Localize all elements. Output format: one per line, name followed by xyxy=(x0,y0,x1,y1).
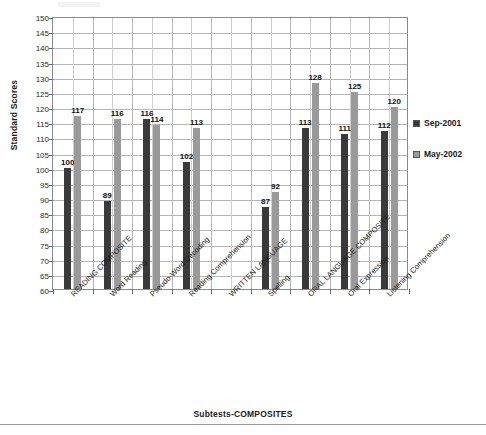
bar-value-label: 120 xyxy=(388,97,401,106)
bar-value-label: 116 xyxy=(111,109,124,118)
chart-legend: Sep-2001May-2002 xyxy=(413,118,462,180)
footer-divider xyxy=(0,424,486,425)
bar-may-2002: 125 xyxy=(351,92,358,289)
y-axis-title: Standard Scores xyxy=(9,55,19,175)
bar-value-label: 128 xyxy=(308,73,321,82)
bar-value-label: 117 xyxy=(71,106,84,115)
y-axis-tick-label: 110 xyxy=(36,135,49,144)
y-axis-tick-label: 65 xyxy=(40,271,49,280)
legend-label: Sep-2001 xyxy=(424,118,461,128)
bar-sep-2001: 100 xyxy=(64,168,71,289)
bar-sep-2001: 87 xyxy=(262,207,269,289)
bar-may-2002: 128 xyxy=(312,83,319,289)
bar-sep-2001: 113 xyxy=(302,128,309,289)
bar-value-label: 102 xyxy=(180,152,193,161)
legend-swatch-icon xyxy=(413,151,420,158)
bar-group: 116114 xyxy=(141,18,163,289)
bar-value-label: 112 xyxy=(378,121,391,130)
category-slot: 100117 xyxy=(53,18,93,289)
bar-may-2002: 120 xyxy=(391,107,398,289)
legend-swatch-icon xyxy=(413,120,420,127)
x-axis-tick-mark xyxy=(409,289,410,294)
y-axis-tick-label: 85 xyxy=(40,211,49,220)
x-axis-tick-mark xyxy=(53,289,54,294)
x-axis-tick-mark xyxy=(93,289,94,294)
bar-may-2002: 113 xyxy=(193,128,200,289)
bar-may-2002: 116 xyxy=(114,119,121,289)
category-slot: 113128 xyxy=(290,18,330,289)
category-slot: 112120 xyxy=(369,18,409,289)
bar-value-label: 113 xyxy=(190,118,203,127)
y-axis-tick-label: 125 xyxy=(36,89,49,98)
y-axis-tick-label: 80 xyxy=(40,226,49,235)
y-axis-tick-label: 60 xyxy=(40,287,49,296)
x-axis-tick-mark xyxy=(132,289,133,294)
bar-value-label: 113 xyxy=(299,118,312,127)
y-axis-tick-label: 105 xyxy=(36,150,49,159)
bar-value-label: 100 xyxy=(61,158,74,167)
x-axis-tick-mark xyxy=(211,289,212,294)
x-axis-title: Subtests-COMPOSITES xyxy=(0,409,486,419)
x-axis-tick-mark xyxy=(290,289,291,294)
y-axis-tick-label: 95 xyxy=(40,180,49,189)
x-axis-tick-mark xyxy=(330,289,331,294)
bar-value-label: 125 xyxy=(348,82,361,91)
y-axis-tick-label: 150 xyxy=(36,14,49,23)
y-axis-tick-label: 140 xyxy=(36,44,49,53)
y-axis-tick-label: 145 xyxy=(36,29,49,38)
y-axis-tick-label: 130 xyxy=(36,74,49,83)
bar-value-label: 114 xyxy=(150,115,163,124)
y-axis-tick-label: 75 xyxy=(40,241,49,250)
bar-value-label: 87 xyxy=(261,197,270,206)
bar-sep-2001: 89 xyxy=(104,201,111,289)
y-axis-tick-label: 90 xyxy=(40,196,49,205)
scan-artifact xyxy=(58,2,100,7)
legend-label: May-2002 xyxy=(424,149,462,159)
bar-group: 113128 xyxy=(299,18,321,289)
y-axis-tick-label: 135 xyxy=(36,59,49,68)
x-axis-tick-mark xyxy=(172,289,173,294)
bar-may-2002: 114 xyxy=(153,125,160,289)
y-axis-tick-label: 100 xyxy=(36,165,49,174)
legend-item: May-2002 xyxy=(413,149,462,159)
bar-value-label: 89 xyxy=(103,191,112,200)
bar-may-2002: 117 xyxy=(74,116,81,289)
x-axis-tick-mark xyxy=(251,289,252,294)
bar-group: 112120 xyxy=(378,18,400,289)
bar-chart: Standard Scores 150145140135130125120115… xyxy=(0,0,486,435)
bar-group: 100117 xyxy=(62,18,84,289)
bar-value-label: 92 xyxy=(271,182,280,191)
bar-value-label: 111 xyxy=(338,124,350,133)
y-axis-tick-label: 120 xyxy=(36,105,49,114)
x-axis-tick-mark xyxy=(369,289,370,294)
category-slot: 116114 xyxy=(132,18,172,289)
legend-item: Sep-2001 xyxy=(413,118,462,128)
bar-sep-2001: 102 xyxy=(183,162,190,289)
y-axis-tick-label: 115 xyxy=(36,120,49,129)
y-axis-tick-label: 70 xyxy=(40,256,49,265)
